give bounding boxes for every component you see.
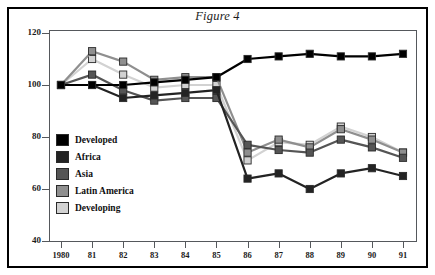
y-axis-tick-mark <box>42 85 49 86</box>
y-axis-tick-label: 100 <box>17 79 41 89</box>
series-marker <box>368 136 375 143</box>
series-marker <box>368 53 375 60</box>
x-axis-tick-label: 81 <box>88 250 97 260</box>
series-marker <box>88 55 95 62</box>
series-marker <box>120 71 127 78</box>
series-marker <box>88 71 95 78</box>
x-axis-tick-mark <box>185 242 186 248</box>
x-axis-tick-mark <box>279 242 280 248</box>
series-marker <box>368 144 375 151</box>
legend-item[interactable]: Asia <box>56 165 134 182</box>
legend-item-label: Asia <box>75 169 93 179</box>
series-marker <box>244 175 251 182</box>
series-marker <box>244 157 251 164</box>
legend-item-label: Developed <box>75 135 117 145</box>
x-axis-tick-label: 83 <box>150 250 159 260</box>
series-marker <box>368 165 375 172</box>
legend-swatch-icon <box>56 185 69 197</box>
x-axis-tick-mark <box>92 242 93 248</box>
series-marker <box>399 172 406 179</box>
figure-container: Figure 4 Terms of trade – Index 1980 = 1… <box>0 0 435 275</box>
x-axis-tick-label: 89 <box>337 250 346 260</box>
x-axis-tick-mark <box>372 242 373 248</box>
chart-legend: DevelopedAfricaAsiaLatin AmericaDevelopi… <box>56 131 134 216</box>
series-marker <box>120 94 127 101</box>
series-marker <box>244 149 251 156</box>
series-marker <box>88 48 95 55</box>
series-marker <box>244 141 251 148</box>
figure-label: Figure 4 <box>0 9 435 24</box>
x-axis-tick-mark <box>341 242 342 248</box>
series-marker <box>337 170 344 177</box>
series-marker <box>213 87 220 94</box>
series-marker <box>275 53 282 60</box>
series-marker <box>306 149 313 156</box>
series-marker <box>306 50 313 57</box>
x-axis-tick-label: 87 <box>274 250 283 260</box>
x-axis-tick-label: 88 <box>305 250 314 260</box>
y-axis-tick-mark <box>42 241 49 242</box>
series-marker <box>275 136 282 143</box>
legend-swatch-icon <box>56 134 69 146</box>
legend-item[interactable]: Africa <box>56 148 134 165</box>
x-axis-tick-label: 86 <box>243 250 252 260</box>
series-marker <box>182 89 189 96</box>
series-marker <box>306 185 313 192</box>
x-axis-tick-label: 85 <box>212 250 221 260</box>
x-axis-tick-mark <box>61 242 62 248</box>
series-marker <box>337 126 344 133</box>
series-marker <box>213 74 220 81</box>
y-axis-tick-mark <box>42 137 49 138</box>
y-axis-tick-mark <box>42 33 49 34</box>
x-axis-tick-label: 90 <box>368 250 377 260</box>
y-axis-tick-label: 40 <box>17 235 41 245</box>
legend-swatch-icon <box>56 202 69 214</box>
legend-item[interactable]: Developed <box>56 131 134 148</box>
legend-item-label: Developing <box>75 203 120 213</box>
x-axis-tick-mark <box>123 242 124 248</box>
series-marker <box>337 53 344 60</box>
series-marker <box>151 92 158 99</box>
x-axis-tick-mark <box>310 242 311 248</box>
series-marker <box>57 81 64 88</box>
x-axis-tick-mark <box>248 242 249 248</box>
y-axis-tick-label: 60 <box>17 183 41 193</box>
legend-item-label: Latin America <box>75 186 134 196</box>
series-marker <box>88 81 95 88</box>
series-marker <box>399 154 406 161</box>
legend-swatch-icon <box>56 168 69 180</box>
legend-item[interactable]: Developing <box>56 199 134 216</box>
x-axis-tick-label: 84 <box>181 250 190 260</box>
series-marker <box>244 55 251 62</box>
x-axis-tick-label: 82 <box>119 250 128 260</box>
x-axis-tick-label: 1980 <box>53 250 70 260</box>
x-axis-tick-mark <box>154 242 155 248</box>
series-marker <box>275 170 282 177</box>
x-axis-tick-mark <box>216 242 217 248</box>
series-marker <box>120 58 127 65</box>
series-marker <box>182 76 189 83</box>
x-axis-tick-label: 91 <box>399 250 408 260</box>
legend-swatch-icon <box>56 151 69 163</box>
legend-item-label: Africa <box>75 152 101 162</box>
series-marker <box>151 79 158 86</box>
legend-item[interactable]: Latin America <box>56 182 134 199</box>
series-marker <box>399 50 406 57</box>
series-marker <box>120 81 127 88</box>
y-axis-tick-mark <box>42 189 49 190</box>
y-axis-tick-label: 120 <box>17 27 41 37</box>
x-axis-tick-mark <box>403 242 404 248</box>
series-marker <box>275 146 282 153</box>
y-axis-tick-label: 80 <box>17 131 41 141</box>
series-marker <box>337 136 344 143</box>
